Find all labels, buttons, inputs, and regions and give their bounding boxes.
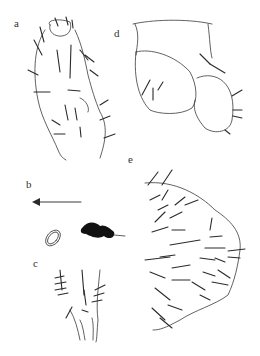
figure-drawings: [0, 0, 260, 356]
panel-a-drawing: [28, 17, 115, 160]
panel-e-drawing: [145, 170, 245, 330]
arrow-left-icon: [32, 198, 40, 206]
panel-b-drawing: [32, 198, 125, 249]
panel-d-drawing: [133, 20, 242, 134]
panel-c-drawing: [55, 270, 105, 342]
